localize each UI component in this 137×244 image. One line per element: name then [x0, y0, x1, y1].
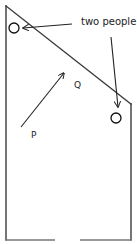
- annotation-arrow-2: [111, 37, 118, 107]
- person-circle-1: [9, 23, 19, 33]
- room-diagram: two people Q P: [0, 0, 137, 244]
- point-q-label: Q: [74, 80, 81, 90]
- point-p-label: P: [31, 130, 37, 140]
- p-to-q-arrow: [21, 73, 64, 127]
- two-people-label: two people: [81, 16, 136, 27]
- person-circle-2: [111, 113, 121, 123]
